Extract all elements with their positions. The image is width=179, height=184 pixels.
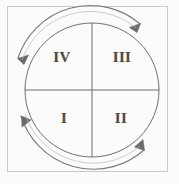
quadrant-label-iv: IV [53, 50, 70, 65]
quadrant-label-iii: III [113, 50, 132, 65]
quadrant-figure: IV III I II [0, 0, 179, 184]
quadrant-label-i: I [61, 111, 67, 126]
arrowhead-top-right [130, 24, 141, 33]
quadrant-label-ii: II [115, 111, 127, 126]
figure-canvas [0, 0, 179, 184]
